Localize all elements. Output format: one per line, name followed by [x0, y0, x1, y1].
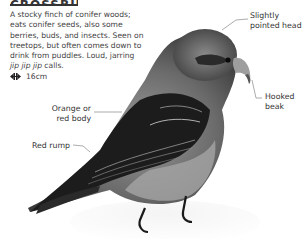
label-pointed-head: Slightly pointed head — [250, 11, 302, 30]
label-line: Hooked — [265, 92, 294, 102]
label-line: red body — [49, 114, 91, 124]
beak-leader-line — [252, 80, 262, 98]
label-line: Orange or — [49, 104, 91, 114]
crossbill-photo — [0, 0, 306, 239]
label-red-rump: Red rump — [32, 141, 70, 151]
head-leader-line — [222, 19, 248, 30]
label-hooked-beak: Hooked beak — [265, 92, 294, 111]
label-line: beak — [265, 102, 294, 112]
label-line: Slightly — [250, 11, 302, 21]
rump-leader-line — [73, 145, 90, 152]
label-body-color: Orange or red body — [49, 104, 91, 123]
label-line: Red rump — [32, 141, 70, 151]
label-line: pointed head — [250, 21, 302, 31]
